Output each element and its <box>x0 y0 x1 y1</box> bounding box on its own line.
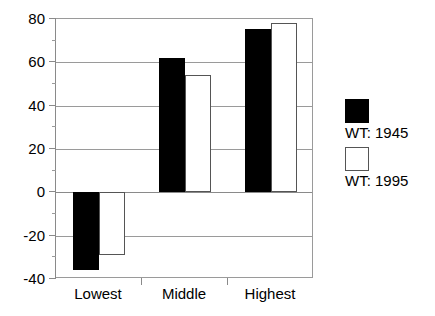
legend-item-1: WT: 1995 <box>345 147 433 189</box>
y-axis <box>49 18 56 278</box>
y-tick-label: 80 <box>28 11 45 26</box>
x-tick-label-highest: Highest <box>227 286 313 302</box>
x-tick-label-middle: Middle <box>141 286 227 302</box>
y-tick-major <box>49 278 56 279</box>
x-tick-label-lowest: Lowest <box>55 286 141 302</box>
y-tick-label: 20 <box>28 141 45 156</box>
bar-middle-series-0 <box>159 58 185 192</box>
bar-chart: 806040200-20-40 LowestMiddleHighest WT: … <box>0 0 435 316</box>
legend-label: WT: 1995 <box>345 172 433 189</box>
y-tick-minor <box>52 256 56 257</box>
legend-swatch-icon <box>345 147 369 171</box>
x-tick <box>141 278 142 285</box>
y-tick-major <box>49 18 56 19</box>
x-tick <box>227 278 228 285</box>
bar-highest-series-1 <box>271 23 297 192</box>
legend-swatch-icon <box>345 99 369 123</box>
y-tick-minor <box>52 83 56 84</box>
y-tick-label: 0 <box>37 184 45 199</box>
y-tick-minor <box>52 126 56 127</box>
plot-area <box>55 18 313 278</box>
legend-label: WT: 1945 <box>345 124 433 141</box>
y-tick-label: 60 <box>28 54 45 69</box>
y-tick-minor <box>52 213 56 214</box>
y-tick-major <box>49 191 56 192</box>
bar-lowest-series-0 <box>73 192 99 270</box>
y-tick-minor <box>52 40 56 41</box>
y-tick-major <box>49 235 56 236</box>
bar-lowest-series-1 <box>99 192 125 255</box>
bar-highest-series-0 <box>245 29 271 193</box>
legend: WT: 1945WT: 1995 <box>345 99 433 195</box>
bar-middle-series-1 <box>185 75 211 192</box>
y-tick-label: -40 <box>23 271 45 286</box>
legend-item-0: WT: 1945 <box>345 99 433 141</box>
y-tick-major <box>49 61 56 62</box>
y-tick-label: -20 <box>23 228 45 243</box>
y-tick-minor <box>52 170 56 171</box>
y-tick-label: 40 <box>28 98 45 113</box>
y-tick-major <box>49 105 56 106</box>
y-tick-major <box>49 148 56 149</box>
